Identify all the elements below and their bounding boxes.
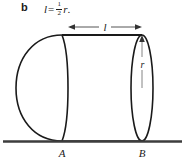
length-arrowhead-left-icon xyxy=(68,24,75,30)
hemisphere-outline xyxy=(16,35,62,141)
figure-page: b l=12r. l r A B xyxy=(0,0,192,165)
length-label: l xyxy=(103,21,106,33)
length-arrowhead-right-icon xyxy=(135,24,142,30)
hemisphere-seam-arc xyxy=(62,35,68,141)
cylinder-hemisphere-diagram: l r A B xyxy=(0,0,192,165)
point-label-a: A xyxy=(58,147,66,159)
radius-label: r xyxy=(141,59,145,70)
point-label-b: B xyxy=(139,147,146,159)
